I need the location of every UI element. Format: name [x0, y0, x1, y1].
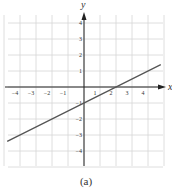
- x-tick-label: −1: [60, 90, 66, 96]
- y-tick-label: −4: [76, 148, 82, 154]
- y-tick-label: −2: [76, 116, 82, 122]
- x-tick-label: −2: [44, 90, 50, 96]
- x-axis-label: x: [167, 81, 172, 92]
- x-tick-label: −3: [28, 90, 34, 96]
- y-tick-label: 4: [79, 20, 82, 26]
- coordinate-plane: xy −4−3−2−112344321−1−2−3−4: [0, 0, 172, 172]
- y-tick-label: 2: [79, 52, 82, 58]
- x-axis-arrow-icon: [158, 85, 166, 90]
- figure-caption: (a): [0, 175, 172, 187]
- y-axis-arrow-icon: [82, 12, 87, 20]
- x-tick-label: −4: [12, 90, 18, 96]
- x-tick-label: 4: [142, 90, 145, 96]
- y-tick-label: 1: [79, 68, 82, 74]
- y-tick-label: −3: [76, 132, 82, 138]
- x-tick-label: 2: [110, 90, 113, 96]
- y-axis-label: y: [80, 0, 86, 10]
- x-tick-label: 3: [126, 90, 129, 96]
- axes: xy: [5, 0, 172, 166]
- y-tick-label: 3: [79, 36, 82, 42]
- x-tick-label: 1: [94, 90, 97, 96]
